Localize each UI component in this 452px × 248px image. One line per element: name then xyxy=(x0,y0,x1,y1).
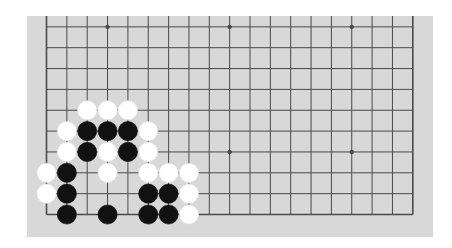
white-stone[interactable] xyxy=(37,163,56,182)
black-stone[interactable] xyxy=(118,122,137,141)
star-point xyxy=(227,25,231,29)
black-stone[interactable] xyxy=(139,205,158,224)
black-stone[interactable] xyxy=(78,142,97,161)
white-stone[interactable] xyxy=(98,142,117,161)
go-diagram xyxy=(0,0,452,248)
black-stone[interactable] xyxy=(57,163,76,182)
white-stone[interactable] xyxy=(179,205,198,224)
white-stone[interactable] xyxy=(78,101,97,120)
board-grid xyxy=(27,16,433,237)
star-point xyxy=(105,25,109,29)
white-stone[interactable] xyxy=(159,163,178,182)
black-stone[interactable] xyxy=(98,122,117,141)
star-point xyxy=(350,25,354,29)
star-point xyxy=(227,150,231,154)
white-stone[interactable] xyxy=(57,142,76,161)
black-stone[interactable] xyxy=(118,142,137,161)
go-board xyxy=(27,16,433,237)
black-stone[interactable] xyxy=(139,184,158,203)
white-stone[interactable] xyxy=(139,163,158,182)
black-stone[interactable] xyxy=(98,205,117,224)
white-stone[interactable] xyxy=(139,122,158,141)
white-stone[interactable] xyxy=(98,163,117,182)
stones-layer xyxy=(37,101,199,224)
black-stone[interactable] xyxy=(57,205,76,224)
white-stone[interactable] xyxy=(139,142,158,161)
white-stone[interactable] xyxy=(98,101,117,120)
star-point xyxy=(350,150,354,154)
white-stone[interactable] xyxy=(179,184,198,203)
black-stone[interactable] xyxy=(57,184,76,203)
black-stone[interactable] xyxy=(159,184,178,203)
white-stone[interactable] xyxy=(57,122,76,141)
black-stone[interactable] xyxy=(78,122,97,141)
white-stone[interactable] xyxy=(118,101,137,120)
white-stone[interactable] xyxy=(179,163,198,182)
black-stone[interactable] xyxy=(159,205,178,224)
white-stone[interactable] xyxy=(37,184,56,203)
